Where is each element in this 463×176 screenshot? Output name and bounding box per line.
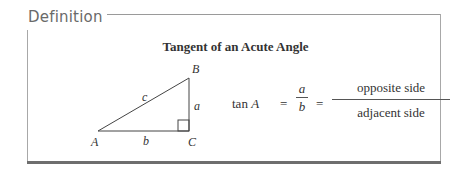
box-bottom-border [27, 161, 441, 164]
vertex-c-label: C [188, 135, 197, 149]
box-top-border [107, 14, 441, 15]
vertex-b-label: B [192, 62, 200, 76]
vertex-a-label: A [90, 135, 99, 149]
formula-lhs: tan A [232, 96, 259, 112]
side-a-label: a [194, 99, 200, 113]
ratio-fraction: a b [296, 81, 308, 114]
right-triangle-diagram: B A C c a b [80, 60, 220, 150]
word-fraction: opposite side adjacent side [332, 79, 450, 121]
equals-sign: = [316, 96, 323, 112]
side-c-label: c [142, 90, 148, 104]
side-b-label: b [143, 134, 149, 148]
section-label: Definition [28, 8, 103, 26]
equals-sign: = [280, 96, 287, 112]
definition-title: Tangent of an Acute Angle [0, 39, 463, 55]
right-angle-marker [178, 120, 189, 131]
